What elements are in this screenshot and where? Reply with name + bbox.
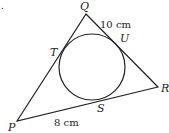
incircle <box>59 34 125 100</box>
label-p: P <box>7 121 16 133</box>
label-q: Q <box>80 0 89 13</box>
label-r: R <box>160 82 169 95</box>
label-ps-length: 8 cm <box>54 117 79 128</box>
stray-mark: . <box>1 1 4 11</box>
triangle-pqr <box>17 14 158 121</box>
triangle-diagram: . Q 10 cm U T R S P 8 cm <box>0 0 169 133</box>
label-qu-length: 10 cm <box>100 19 132 30</box>
label-s: S <box>97 102 105 115</box>
label-u: U <box>120 32 130 45</box>
